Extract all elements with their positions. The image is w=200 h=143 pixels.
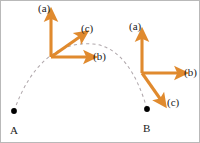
point-label-b: B xyxy=(143,123,150,134)
left-frame-label-b: (b) xyxy=(93,51,106,62)
right-frame xyxy=(142,37,179,100)
trajectory-arc xyxy=(14,44,147,111)
diagram-figure: (a) (c) (b) (a) (b) (c) A B xyxy=(0,0,200,143)
point-marker-a xyxy=(11,108,17,114)
point-label-a: A xyxy=(10,125,18,136)
left-frame-label-a: (a) xyxy=(38,3,50,14)
diagram-canvas xyxy=(1,1,200,143)
left-frame-label-c: (c) xyxy=(81,23,93,34)
right-frame-label-a: (a) xyxy=(129,21,141,32)
point-marker-b xyxy=(144,106,150,112)
left-frame-axis-c xyxy=(51,36,81,57)
right-frame-label-c: (c) xyxy=(167,97,179,108)
right-frame-axis-c xyxy=(142,73,161,100)
right-frame-label-b: (b) xyxy=(184,67,197,78)
